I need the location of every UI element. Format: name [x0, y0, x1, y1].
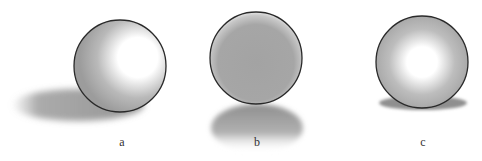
panel-c [376, 16, 468, 110]
label-c: c [420, 136, 425, 148]
sphere-b [210, 12, 302, 104]
sphere-c [376, 16, 468, 108]
shading-figure: a b c [0, 0, 482, 161]
label-b: b [254, 136, 260, 148]
label-a: a [119, 136, 124, 148]
panel-b [210, 12, 303, 152]
panel-a [12, 20, 166, 121]
spheres-illustration [0, 0, 482, 161]
sphere-a [74, 20, 166, 112]
